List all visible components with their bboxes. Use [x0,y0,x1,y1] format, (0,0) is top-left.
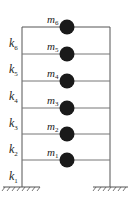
stiffness-label-4: k4 [9,89,18,105]
shear-building-diagram: m6 m5 m4 m3 m2 m1 k6 k5 k4 k3 k2 k1 [0,0,134,201]
mass-label-3: m3 [47,94,59,108]
mass-label-2: m2 [47,120,59,134]
mass-label-4: m4 [47,67,59,81]
ground-support-left [2,187,40,191]
mass-6 [60,20,75,35]
mass-label-6: m6 [47,13,59,27]
stiffness-label-6: k6 [9,36,18,52]
mass-2 [60,127,75,142]
mass-labels: m6 m5 m4 m3 m2 m1 [47,13,59,160]
ground-support-right [93,187,128,191]
stiffness-label-2: k2 [9,142,18,158]
mass-4 [60,74,75,89]
stiffness-label-3: k3 [9,116,18,132]
lumped-masses [60,20,75,168]
mass-label-5: m5 [47,40,59,54]
mass-5 [60,47,75,62]
stiffness-labels: k6 k5 k4 k3 k2 k1 [9,36,18,185]
mass-3 [60,101,75,116]
mass-label-1: m1 [47,146,59,160]
stiffness-label-1: k1 [9,169,18,185]
mass-1 [60,153,75,168]
stiffness-label-5: k5 [9,62,18,78]
